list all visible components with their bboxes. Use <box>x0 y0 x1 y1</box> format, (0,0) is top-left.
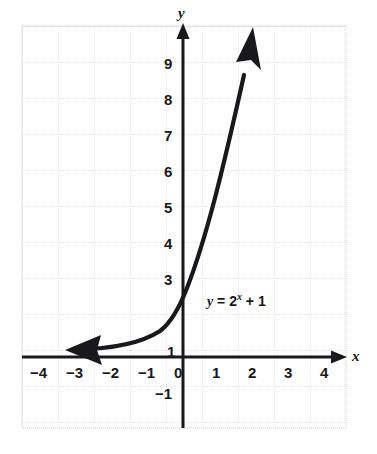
equation-annotation: y = 2x + 1 <box>207 292 266 309</box>
y-tick-1: 1 <box>167 344 175 359</box>
x-axis-label: x <box>352 349 360 364</box>
x-tick-4: 4 <box>320 365 328 380</box>
x-tick-3: 3 <box>284 365 292 380</box>
coordinate-plane <box>0 0 377 454</box>
y-tick-7: 7 <box>164 128 172 143</box>
y-tick-4: 4 <box>164 236 172 251</box>
equation-rhs: + 1 <box>242 293 266 309</box>
x-tick-2: 2 <box>248 365 256 380</box>
graph-figure: y x 9 8 7 6 5 4 3 1 −1 −4 −3 −2 −1 0 1 2… <box>0 0 377 454</box>
y-tick-neg1: −1 <box>155 386 172 401</box>
equation-equals: = 2 <box>213 293 237 309</box>
y-tick-6: 6 <box>164 164 172 179</box>
x-tick-0: 0 <box>174 365 182 380</box>
y-tick-9: 9 <box>164 56 172 71</box>
x-tick-neg3: −3 <box>66 365 83 380</box>
y-tick-8: 8 <box>164 92 172 107</box>
y-axis-label: y <box>178 6 185 21</box>
x-tick-neg2: −2 <box>102 365 119 380</box>
y-tick-3: 3 <box>164 272 172 287</box>
x-tick-neg1: −1 <box>138 365 155 380</box>
y-tick-5: 5 <box>164 200 172 215</box>
x-tick-neg4: −4 <box>30 365 47 380</box>
x-tick-1: 1 <box>212 365 220 380</box>
